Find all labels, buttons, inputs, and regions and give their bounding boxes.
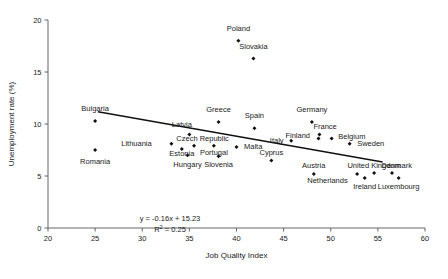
data-point-label: Spain: [245, 111, 264, 120]
data-point-marker: [251, 56, 255, 60]
data-point-label: Latvia: [172, 120, 193, 129]
x-tick-label: 30: [138, 234, 146, 243]
chart-canvas: 20253035404550556005101520 PolandSlovaki…: [0, 0, 448, 279]
regression-equation: y = -0.16x + 15.23: [140, 214, 200, 223]
data-point-label: Cyprus: [259, 148, 283, 157]
data-point-label: Denmark: [382, 161, 413, 170]
y-tick-label: 5: [37, 172, 41, 181]
data-point-label: Poland: [227, 24, 250, 33]
y-tick-label: 10: [33, 120, 41, 129]
x-tick-label: 25: [91, 234, 99, 243]
x-tick-label: 35: [185, 234, 193, 243]
axes: 20253035404550556005101520: [33, 16, 429, 243]
data-point-label: France: [313, 122, 336, 131]
data-point-marker: [330, 137, 334, 141]
data-point-marker: [363, 176, 367, 180]
data-point-label: Netherlands: [307, 176, 348, 185]
y-axis-title: Unemployment rate (%): [7, 81, 16, 166]
data-point-marker: [397, 176, 401, 180]
r-squared-value: R2 = 0.25: [154, 224, 186, 234]
data-point-marker: [235, 145, 239, 149]
data-point-marker: [93, 148, 97, 152]
x-tick-label: 50: [327, 234, 335, 243]
data-point-label: Austria: [302, 161, 326, 170]
data-point-marker: [192, 144, 196, 148]
data-point-marker: [348, 142, 352, 146]
data-point-marker: [169, 142, 173, 146]
data-point-marker: [316, 137, 320, 141]
data-point-label: Slovenia: [204, 160, 234, 169]
data-points: [93, 39, 400, 180]
data-point-label: Italy: [270, 136, 284, 145]
x-tick-label: 60: [421, 234, 429, 243]
data-point-label: Slovakia: [239, 42, 268, 51]
data-point-label: Greece: [206, 105, 231, 114]
data-point-label: Portugal: [200, 148, 228, 157]
point-labels: PolandSlovakiaBulgariaRomaniaGreeceSpain…: [80, 24, 419, 191]
data-point-label: Hungary: [173, 160, 202, 169]
data-point-marker: [217, 120, 221, 124]
x-tick-label: 55: [374, 234, 382, 243]
data-point-label: Czech Republic: [176, 134, 229, 143]
data-point-label: Sweden: [357, 139, 384, 148]
data-point-label: Estonia: [169, 149, 195, 158]
data-point-marker: [372, 171, 376, 175]
x-tick-label: 40: [232, 234, 240, 243]
data-point-marker: [269, 158, 273, 162]
y-tick-label: 20: [33, 16, 41, 25]
data-point-label: Finland: [285, 131, 310, 140]
data-point-label: Germany: [296, 105, 327, 114]
regression-annotation: y = -0.16x + 15.23R2 = 0.25: [140, 214, 200, 234]
data-point-label: Romania: [80, 157, 111, 166]
data-point-marker: [93, 119, 97, 123]
y-tick-label: 0: [37, 224, 41, 233]
x-axis-title: Job Quality Index: [206, 251, 268, 260]
data-point-marker: [317, 132, 321, 136]
x-tick-label: 45: [279, 234, 287, 243]
data-point-label: Luxembourg: [378, 182, 420, 191]
scatter-chart: 20253035404550556005101520 PolandSlovaki…: [0, 0, 448, 279]
data-point-label: Lithuania: [121, 139, 152, 148]
y-tick-label: 15: [33, 68, 41, 77]
data-point-label: Bulgaria: [81, 104, 109, 113]
data-point-marker: [355, 172, 359, 176]
data-point-label: Ireland: [353, 182, 376, 191]
x-tick-label: 20: [44, 234, 52, 243]
data-point-marker: [252, 126, 256, 130]
data-point-marker: [390, 171, 394, 175]
